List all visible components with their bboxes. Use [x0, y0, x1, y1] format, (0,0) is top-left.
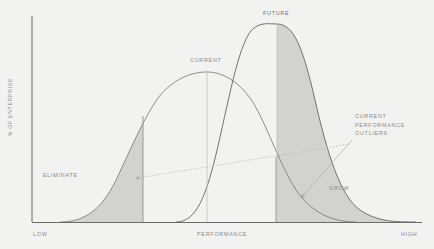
chart-figure: % OF ENTERPRISE LOW PERFORMANCE HIGH CUR…: [0, 0, 434, 249]
annotation-line-3: OUTLIERS: [355, 129, 405, 138]
annotation-line-2: PERFORMANCE: [355, 121, 405, 130]
region-label-grow: GROW: [329, 185, 349, 193]
annotation-current-performance-outliers: CURRENT PERFORMANCE OUTLIERS: [355, 112, 405, 138]
x-axis-label: PERFORMANCE: [197, 231, 247, 239]
shaded-region-eliminate: [60, 72, 207, 222]
curve-label-future: FUTURE: [263, 10, 289, 18]
annotation-line-1: CURRENT: [355, 112, 405, 121]
x-axis-tick-high: HIGH: [401, 231, 417, 239]
y-axis-label: % OF ENTERPRISE: [7, 77, 13, 137]
curve-label-current: CURRENT: [190, 57, 222, 65]
x-axis-tick-low: LOW: [33, 231, 48, 239]
region-label-eliminate: ELIMINATE: [43, 172, 78, 180]
